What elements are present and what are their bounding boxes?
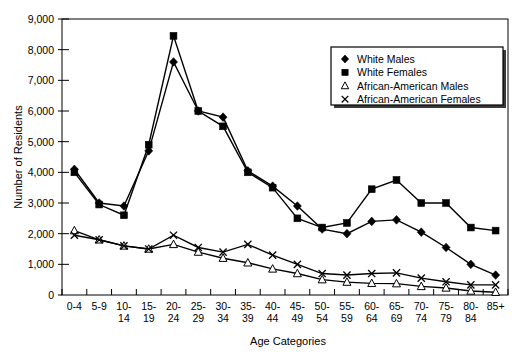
y-axis-tick-label: 0 <box>48 289 54 301</box>
legend-label: White Males <box>357 53 415 65</box>
y-axis-tick-label: 2,000 <box>28 228 54 240</box>
x-axis-tick-label: 60- <box>364 300 380 312</box>
x-axis-tick-label: 79 <box>440 312 452 324</box>
data-point-marker <box>492 227 499 234</box>
x-axis-tick-label: 64 <box>366 312 378 324</box>
data-point-marker <box>294 215 301 222</box>
x-axis-tick-label: 14 <box>118 312 130 324</box>
y-axis-tick-label: 7,000 <box>28 74 54 86</box>
x-axis-tick-label: 50- <box>315 300 331 312</box>
chart-legend: White MalesWhite FemalesAfrican-American… <box>331 47 506 108</box>
x-axis-tick-label: 0-4 <box>67 300 82 312</box>
data-point-marker <box>96 201 103 208</box>
x-axis-tick-label: 10- <box>116 300 132 312</box>
x-axis-tick-label: 85+ <box>487 300 505 312</box>
data-point-marker <box>368 186 375 193</box>
y-axis-title: Number of Residents <box>12 105 24 209</box>
x-axis-tick-label: 24 <box>168 312 180 324</box>
x-axis-tick-label: 84 <box>465 312 477 324</box>
y-axis-tick-label: 9,000 <box>28 13 54 25</box>
x-axis-tick-label: 20- <box>166 300 182 312</box>
x-axis-tick-label: 44 <box>267 312 279 324</box>
y-axis-tick-label: 8,000 <box>28 44 54 56</box>
legend-label: White Females <box>357 66 427 78</box>
data-point-marker <box>195 108 202 115</box>
x-axis-tick-label: 80- <box>463 300 479 312</box>
residents-by-age-line-chart: 01,0002,0003,0004,0005,0006,0007,0008,00… <box>0 0 518 357</box>
x-axis-tick-label: 70- <box>414 300 430 312</box>
x-axis-tick-label: 19 <box>143 312 155 324</box>
legend-label: African-American Males <box>357 80 468 92</box>
x-axis-tick-label: 30- <box>215 300 231 312</box>
x-axis-tick-label: 49 <box>292 312 304 324</box>
x-axis-tick-label: 15- <box>141 300 157 312</box>
legend-marker-filled-square <box>342 69 348 75</box>
x-axis-tick-label: 39 <box>242 312 254 324</box>
x-axis-tick-label: 40- <box>265 300 281 312</box>
x-axis-tick-label: 55- <box>339 300 355 312</box>
data-point-marker <box>467 224 474 231</box>
y-axis-tick-label: 6,000 <box>28 105 54 117</box>
y-axis-tick-label: 5,000 <box>28 136 54 148</box>
x-axis-tick-label: 54 <box>316 312 328 324</box>
data-point-marker <box>443 200 450 207</box>
data-point-marker <box>269 184 276 191</box>
x-axis-tick-label: 74 <box>415 312 427 324</box>
data-point-marker <box>418 200 425 207</box>
data-point-marker <box>393 177 400 184</box>
data-point-marker <box>344 220 351 227</box>
x-axis-tick-label: 65- <box>389 300 405 312</box>
chart-container: 01,0002,0003,0004,0005,0006,0007,0008,00… <box>0 0 518 357</box>
data-point-marker <box>145 141 152 148</box>
x-axis-tick-label: 5-9 <box>92 300 107 312</box>
data-point-marker <box>220 123 227 130</box>
x-axis-tick-label: 25- <box>191 300 207 312</box>
data-point-marker <box>319 224 326 231</box>
y-axis-tick-label: 3,000 <box>28 197 54 209</box>
y-axis-tick-label: 4,000 <box>28 166 54 178</box>
legend-label: African-American Females <box>357 93 481 105</box>
x-axis-tick-label: 75- <box>438 300 454 312</box>
x-axis-tick-label: 45- <box>290 300 306 312</box>
data-point-marker <box>244 169 251 176</box>
x-axis-tick-label: 69 <box>391 312 403 324</box>
x-axis-tick-label: 34 <box>217 312 229 324</box>
data-point-marker <box>71 169 78 176</box>
x-axis-tick-label: 35- <box>240 300 256 312</box>
x-axis-tick-label: 29 <box>192 312 204 324</box>
data-point-marker <box>170 32 177 39</box>
x-axis-tick-label: 59 <box>341 312 353 324</box>
data-point-marker <box>121 212 128 219</box>
y-axis-tick-label: 1,000 <box>28 258 54 270</box>
x-axis-title: Age Categories <box>250 335 326 347</box>
